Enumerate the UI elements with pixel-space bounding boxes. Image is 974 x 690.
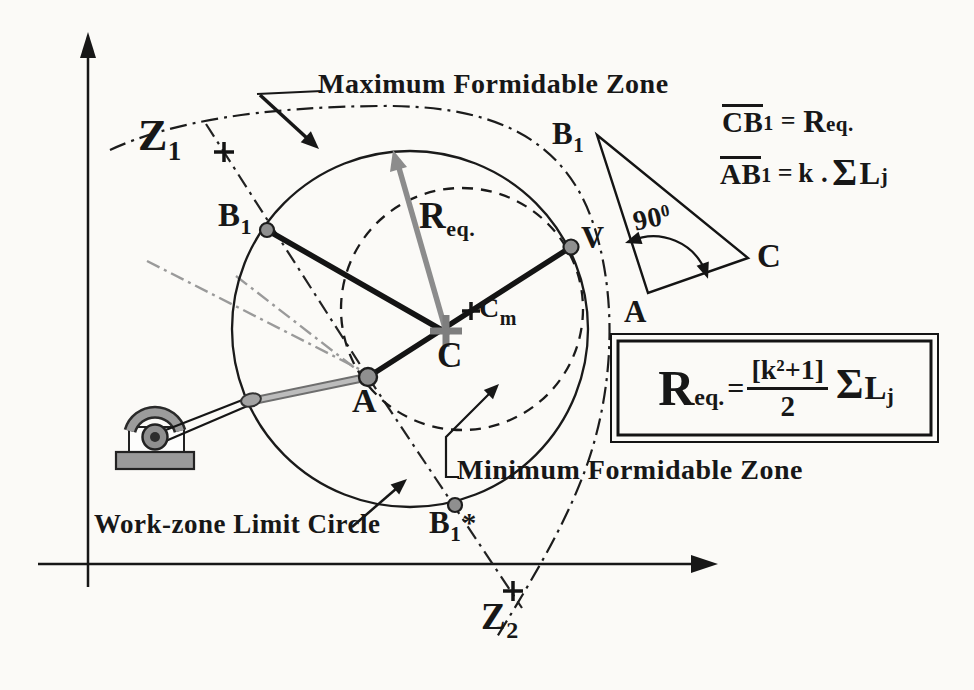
eq1-rhs: R <box>803 104 826 140</box>
req-main: R <box>419 195 446 236</box>
robot-pivot-center <box>150 432 160 442</box>
eq2-sigma: Σ <box>832 150 857 194</box>
triangle-label-b1: B1 <box>552 118 584 149</box>
equation-cb1: CB1 = Req. <box>722 104 854 140</box>
eq2-equals: = <box>772 156 798 188</box>
max-zone-label: Maximum Formidable Zone <box>318 70 669 98</box>
point-z1-cross <box>214 142 234 162</box>
eq2-l-sub: j <box>881 164 889 189</box>
formula-denominator: 2 <box>780 390 795 421</box>
z1-main: Z <box>138 111 168 160</box>
formula-l-sub: j <box>886 383 893 409</box>
point-label-cm: Cm <box>479 294 517 322</box>
formula-l: L <box>864 370 886 407</box>
z2-sub: 2 <box>506 617 519 643</box>
point-label-b1star: B1* <box>429 507 477 538</box>
point-label-a: A <box>352 384 377 418</box>
triangle-label-c: C <box>757 240 781 273</box>
formula-equals: = <box>727 371 744 405</box>
gray-ray-2 <box>236 276 365 376</box>
b1-sub: 1 <box>241 214 253 239</box>
point-label-b1: B1 <box>218 199 252 232</box>
triangle-label-a: A <box>624 296 647 327</box>
y-axis-arrow-icon <box>80 32 96 58</box>
cm-sub: m <box>500 307 517 329</box>
equation-ab1: AB1 = k . Σ Lj <box>720 156 888 194</box>
eq1-bar: CB <box>722 104 763 138</box>
b1star-main: B <box>429 505 450 540</box>
max-zone-leader <box>257 91 322 149</box>
right-angle-arc <box>631 236 706 273</box>
z1-sub: 1 <box>168 136 182 166</box>
req-figure-label: Req. <box>419 197 475 234</box>
cm-main: C <box>479 292 500 323</box>
formula-lhs: R <box>658 359 694 417</box>
req-formula: Req. = [k²+1] 2 Σ Lj <box>622 344 930 432</box>
b1-main: B <box>218 197 241 233</box>
point-label-z1: Z1 <box>138 114 182 158</box>
robot-link2 <box>252 377 368 401</box>
figure-canvas: Maximum Formidable Zone Minimum Formidab… <box>0 0 974 690</box>
tri-b1-sub: 1 <box>573 133 584 157</box>
work-zone-label: Work-zone Limit Circle <box>94 511 380 538</box>
point-v-dot <box>564 240 579 255</box>
x-axis <box>38 555 718 573</box>
req-sub: eq. <box>446 216 475 241</box>
y-axis <box>80 32 96 587</box>
formula-numerator: [k²+1] <box>747 356 828 390</box>
eq2-bar: AB <box>720 156 761 190</box>
formula-sigma: Σ <box>836 360 863 408</box>
eq1-bar-sub: 1 <box>763 112 774 135</box>
b1star-asterisk: * <box>462 507 477 538</box>
eq1-rhs-sub: eq. <box>826 112 854 137</box>
req-arrowhead-icon <box>390 150 407 172</box>
point-label-z2: Z2 <box>481 598 519 635</box>
gray-ray-1 <box>147 261 363 371</box>
robot-base <box>116 397 252 469</box>
eq2-k: k . <box>798 156 828 189</box>
formula-fraction: [k²+1] 2 <box>747 356 828 421</box>
point-label-c: C <box>437 338 463 373</box>
point-b1-dot <box>260 223 274 237</box>
robot-base-plate <box>116 452 194 469</box>
eq2-l: L <box>860 156 881 192</box>
eq2-bar-sub: 1 <box>761 164 772 187</box>
b1star-sub: 1 <box>450 522 461 546</box>
min-zone-label: Minimum Formidable Zone <box>457 456 803 484</box>
x-axis-arrow-icon <box>691 555 718 573</box>
eq1-equals: = <box>774 104 803 136</box>
tri-b1-main: B <box>552 116 573 151</box>
point-label-v: V <box>581 221 605 253</box>
formula-lhs-sub: eq. <box>694 384 724 411</box>
z2-main: Z <box>481 596 506 637</box>
